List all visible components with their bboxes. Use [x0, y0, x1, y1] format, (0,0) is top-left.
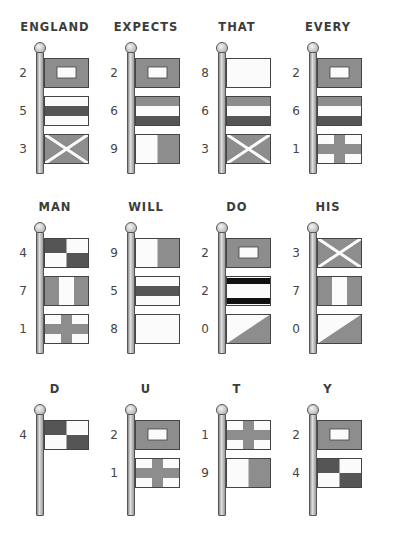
digit-label: 1 [291, 142, 301, 156]
signal-flag-1-icon [317, 134, 362, 164]
digit-label: 4 [18, 428, 28, 442]
flagpole-icon [127, 52, 135, 174]
word-label: HIS [283, 200, 373, 214]
flag-group: THAT863 [192, 20, 282, 190]
signal-flag-8-icon [226, 58, 271, 88]
flag-group: Y24 [283, 382, 373, 546]
signal-flag-2-icon [226, 276, 271, 306]
digit-label: 2 [200, 246, 210, 260]
word-label: WILL [101, 200, 191, 214]
digit-label: 3 [291, 246, 301, 260]
signal-flag-2-icon [317, 420, 362, 450]
signal-flag-7-icon [317, 276, 362, 306]
digit-label: 1 [200, 428, 210, 442]
digit-label: 9 [109, 142, 119, 156]
signal-flag-0-icon [226, 314, 271, 344]
signal-flag-3-icon [317, 238, 362, 268]
flagpole-icon [218, 52, 226, 174]
signal-flag-3-icon [226, 134, 271, 164]
digit-label: 8 [200, 66, 210, 80]
digit-label: 4 [18, 246, 28, 260]
digit-label: 9 [200, 466, 210, 480]
digit-label: 6 [109, 104, 119, 118]
digit-label: 2 [200, 284, 210, 298]
flag-group: DO220 [192, 200, 282, 370]
flagpole-icon [309, 52, 317, 174]
digit-label: 1 [109, 466, 119, 480]
flag-group: WILL958 [101, 200, 191, 370]
digit-label: 0 [200, 322, 210, 336]
flag-group: T19 [192, 382, 282, 546]
digit-label: 4 [291, 466, 301, 480]
digit-label: 2 [109, 428, 119, 442]
signal-flag-2-icon [44, 58, 89, 88]
digit-label: 7 [18, 284, 28, 298]
word-label: THAT [192, 20, 282, 34]
word-label: ENGLAND [10, 20, 100, 34]
flag-group: EVERY261 [283, 20, 373, 190]
signal-flag-5-icon [44, 96, 89, 126]
signal-flag-9-icon [226, 458, 271, 488]
flag-group: ENGLAND253 [10, 20, 100, 190]
flagpole-icon [218, 414, 226, 516]
flag-group: EXPECTS269 [101, 20, 191, 190]
flagpole-icon [36, 52, 44, 174]
signal-flag-7-icon [44, 276, 89, 306]
flagpole-icon [36, 414, 44, 516]
word-label: MAN [10, 200, 100, 214]
digit-label: 3 [18, 142, 28, 156]
word-label: T [192, 382, 282, 396]
signal-flag-0-icon [317, 314, 362, 344]
signal-flag-1-icon [44, 314, 89, 344]
signal-flag-4-icon [44, 238, 89, 268]
word-label: D [10, 382, 100, 396]
flag-group: U21 [101, 382, 191, 546]
flagpole-icon [218, 232, 226, 354]
digit-label: 1 [18, 322, 28, 336]
signal-flag-2-icon [317, 58, 362, 88]
flagpole-icon [36, 232, 44, 354]
word-label: EXPECTS [101, 20, 191, 34]
signal-flag-3-icon [44, 134, 89, 164]
digit-label: 2 [109, 66, 119, 80]
digit-label: 3 [200, 142, 210, 156]
signal-flag-1-icon [226, 420, 271, 450]
digit-label: 5 [109, 284, 119, 298]
digit-label: 8 [109, 322, 119, 336]
flag-group: HIS370 [283, 200, 373, 370]
digit-label: 2 [291, 428, 301, 442]
signal-flag-5-icon [135, 276, 180, 306]
signal-flag-9-icon [135, 238, 180, 268]
signal-flag-6-icon [226, 96, 271, 126]
signal-flag-4-icon [44, 420, 89, 450]
signal-flag-8-icon [135, 314, 180, 344]
digit-label: 7 [291, 284, 301, 298]
word-label: U [101, 382, 191, 396]
digit-label: 5 [18, 104, 28, 118]
flag-group: D4 [10, 382, 100, 546]
signal-flag-1-icon [135, 458, 180, 488]
digit-label: 9 [109, 246, 119, 260]
flagpole-icon [127, 414, 135, 516]
signal-flag-9-icon [135, 134, 180, 164]
word-label: DO [192, 200, 282, 214]
digit-label: 2 [18, 66, 28, 80]
signal-flag-2-icon [226, 238, 271, 268]
digit-label: 6 [291, 104, 301, 118]
word-label: EVERY [283, 20, 373, 34]
signal-flag-6-icon [135, 96, 180, 126]
signal-flag-6-icon [317, 96, 362, 126]
flag-group: MAN471 [10, 200, 100, 370]
flagpole-icon [309, 414, 317, 516]
flagpole-icon [309, 232, 317, 354]
flagpole-icon [127, 232, 135, 354]
digit-label: 2 [291, 66, 301, 80]
signal-flag-2-icon [135, 58, 180, 88]
digit-label: 0 [291, 322, 301, 336]
digit-label: 6 [200, 104, 210, 118]
signal-flag-4-icon [317, 458, 362, 488]
signal-flag-2-icon [135, 420, 180, 450]
word-label: Y [283, 382, 373, 396]
